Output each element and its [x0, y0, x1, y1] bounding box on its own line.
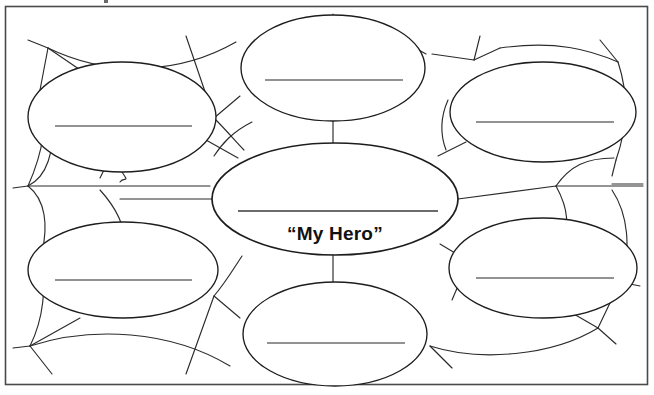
bubble-bottom-center[interactable]: [243, 282, 427, 386]
bubble-top-left[interactable]: [28, 62, 216, 172]
bubble-bottom-right[interactable]: [449, 218, 637, 318]
spoke-center-to-right: [458, 186, 556, 199]
center-topic-label: “My Hero”: [287, 223, 383, 244]
scan-speck: [104, 0, 108, 3]
spider-web-graphic-organizer: “My Hero”: [0, 0, 654, 395]
bubble-bottom-left[interactable]: [28, 222, 218, 318]
bubble-top-right[interactable]: [450, 62, 636, 162]
center-topic-bubble[interactable]: “My Hero”: [212, 143, 458, 255]
bubble-top-center[interactable]: [241, 15, 425, 121]
web-diagram-canvas: “My Hero”: [0, 0, 654, 395]
